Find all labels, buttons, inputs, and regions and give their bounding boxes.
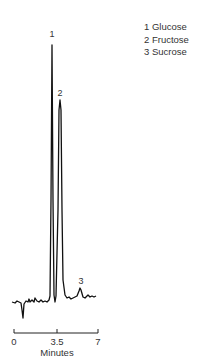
peak-label-2: 2 xyxy=(57,88,62,98)
peak-label-3: 3 xyxy=(78,276,83,286)
x-tick-label-7: 7 xyxy=(95,336,100,347)
x-tick-label-3-5: 3.5 xyxy=(50,336,63,347)
legend-item-fructose: 2 Fructose xyxy=(144,34,189,47)
legend: 1 Glucose 2 Fructose 3 Sucrose xyxy=(144,21,189,59)
x-tick-label-0: 0 xyxy=(11,336,16,347)
legend-item-glucose: 1 Glucose xyxy=(144,21,189,34)
peak-label-1: 1 xyxy=(49,29,54,39)
legend-item-sucrose: 3 Sucrose xyxy=(144,46,189,59)
x-axis-label: Minutes xyxy=(40,347,73,358)
